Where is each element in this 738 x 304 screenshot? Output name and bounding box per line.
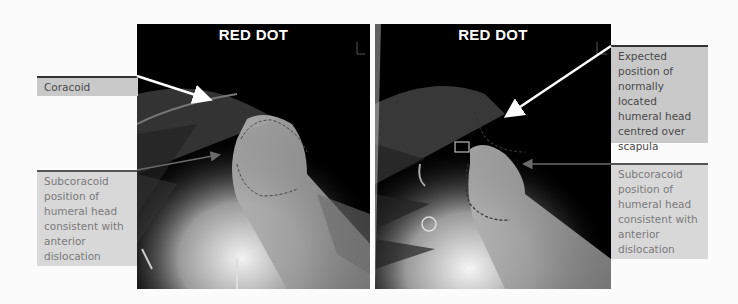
label-left-subcoracoid: Subcoracoid position of humeral head con… — [37, 170, 137, 266]
label-expected-position: Expected position of normally located hu… — [611, 45, 708, 143]
panel-title-left: RED DOT — [137, 26, 370, 43]
panel-title-right: RED DOT — [375, 26, 611, 43]
label-right-subcoracoid: Subcoracoid position of humeral head con… — [611, 163, 708, 259]
xray-right: RED DOT — [375, 24, 611, 289]
xray-left-image — [137, 24, 370, 289]
label-coracoid: Coracoid — [37, 76, 138, 96]
xray-left: RED DOT — [137, 24, 370, 289]
xray-right-image — [375, 24, 611, 289]
